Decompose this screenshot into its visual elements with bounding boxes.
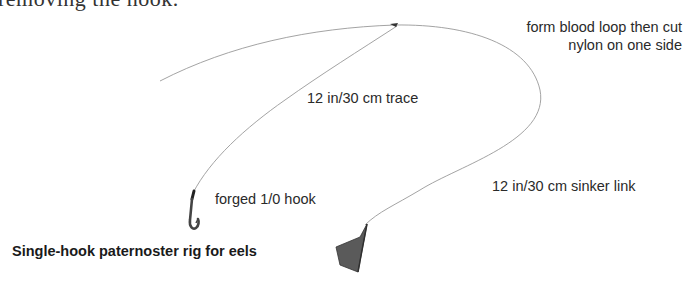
sinker-icon xyxy=(336,224,367,272)
trace-line xyxy=(193,26,397,193)
hook-icon xyxy=(190,191,199,229)
knot-label: form blood loop then cut nylon on one si… xyxy=(472,18,682,54)
diagram-caption: Single-hook paternoster rig for eels xyxy=(12,243,257,259)
trace-label: 12 in/30 cm trace xyxy=(307,90,418,106)
knot-label-line-1: form blood loop then cut xyxy=(472,18,682,36)
sinker-link-line xyxy=(365,25,541,225)
hook-label: forged 1/0 hook xyxy=(215,191,316,207)
knot-label-line-2: nylon on one side xyxy=(472,36,682,54)
main-line xyxy=(160,25,395,81)
sinker-link-label: 12 in/30 cm sinker link xyxy=(492,178,635,194)
